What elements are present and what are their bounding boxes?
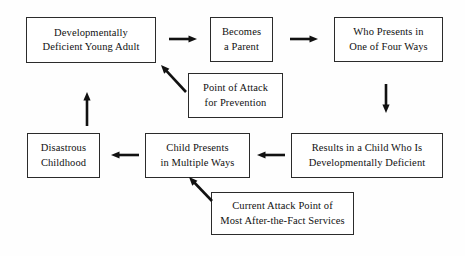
node-current-attack-point-of-most-after-the-fact-services[interactable]: Current Attack Point of Most After-the-F… — [211, 192, 354, 235]
node-disastrous-childhood[interactable]: Disastrous Childhood — [27, 133, 100, 178]
arrow-becomes-parent-to-who-presents — [281, 30, 327, 48]
node-label: Developmentally Deficient Young Adult — [43, 26, 140, 55]
node-label: Child Presents in Multiple Ways — [160, 141, 234, 170]
node-results-in-a-child-who-is-developmentally-deficient[interactable]: Results in a Child Who Is Developmentall… — [291, 133, 443, 178]
node-label: Who Presents in One of Four Ways — [349, 25, 427, 54]
node-label: Disastrous Childhood — [41, 141, 86, 170]
arrow-results-in-child-to-child-presents — [248, 146, 294, 164]
node-child-presents-in-multiple-ways[interactable]: Child Presents in Multiple Ways — [145, 133, 250, 178]
node-who-presents-in-one-of-four-ways[interactable]: Who Presents in One of Four Ways — [334, 17, 443, 62]
node-becomes-a-parent[interactable]: Becomes a Parent — [210, 17, 273, 62]
node-label: Results in a Child Who Is Developmentall… — [309, 141, 426, 170]
diagram-canvas: Developmentally Deficient Young AdultBec… — [0, 0, 465, 256]
node-point-of-attack-for-prevention[interactable]: Point of Attack for Prevention — [188, 73, 283, 118]
arrow-who-presents-to-results-in-child — [377, 75, 395, 122]
node-label: Becomes a Parent — [222, 25, 261, 54]
node-label: Point of Attack for Prevention — [203, 81, 268, 110]
node-developmentally-deficient-young-adult[interactable]: Developmentally Deficient Young Adult — [26, 17, 156, 63]
arrow-young-adult-to-becomes-parent — [160, 30, 206, 48]
arrow-disastrous-childhood-to-young-adult — [78, 83, 96, 135]
node-label: Current Attack Point of Most After-the-F… — [220, 199, 344, 228]
arrow-child-presents-to-disastrous-childhood — [102, 146, 148, 164]
